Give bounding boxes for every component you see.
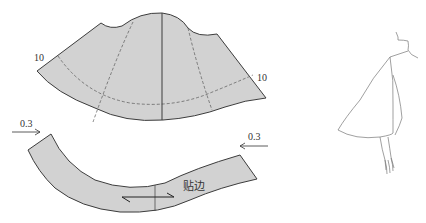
cape-pattern-piece: 10 10 (34, 13, 267, 122)
cape-right-label: 10 (257, 72, 267, 83)
cape-front (390, 57, 393, 133)
facing-pattern-piece: 贴边 0.3 0.3 (12, 118, 268, 212)
facing-label: 贴边 (183, 179, 205, 193)
cape-back (338, 57, 390, 130)
cape-outline (37, 13, 266, 121)
left-arrow-icon (12, 129, 40, 135)
cape-left-label: 10 (34, 52, 44, 63)
right-arrow-label: 0.3 (248, 131, 261, 142)
cape-inner-fold (393, 75, 402, 135)
facing-outline (28, 134, 257, 212)
right-arrow-icon (240, 143, 268, 149)
arm (380, 137, 394, 170)
neck-shoulder (390, 51, 408, 57)
left-arrow-label: 0.3 (20, 118, 33, 129)
hand (385, 158, 393, 174)
pattern-diagram: 10 10 贴边 0.3 0.3 (0, 0, 426, 223)
figure-illustration (338, 32, 418, 174)
cape-hem (338, 130, 393, 138)
